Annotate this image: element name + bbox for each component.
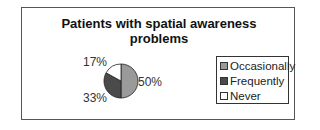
legend-item-never: Never: [220, 89, 261, 103]
legend-item-frequently: Frequently: [220, 74, 284, 88]
chart-frame: Patients with spatial awareness problems…: [21, 7, 295, 120]
pie-slice-occasionally: [121, 64, 138, 98]
swatch-icon: [220, 92, 228, 100]
label-frequently: 33%: [83, 91, 107, 105]
label-occasionally: 50%: [138, 75, 162, 89]
chart-legend: Occasionally Frequently Never: [216, 56, 289, 104]
legend-item-occasionally: Occasionally: [220, 59, 295, 73]
legend-label: Occasionally: [230, 60, 295, 72]
legend-label: Never: [230, 90, 261, 102]
swatch-icon: [220, 77, 228, 85]
label-never: 17%: [83, 55, 107, 69]
swatch-icon: [220, 62, 228, 70]
legend-label: Frequently: [230, 75, 284, 87]
